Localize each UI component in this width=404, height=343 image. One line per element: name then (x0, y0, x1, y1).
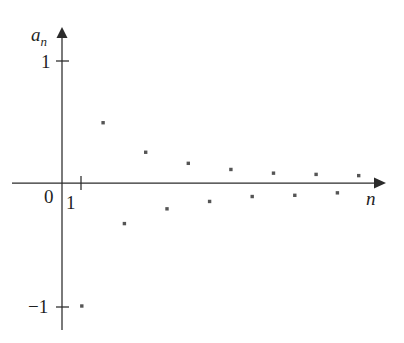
data-points-group (80, 121, 360, 308)
data-point (229, 168, 232, 171)
data-point (80, 304, 83, 307)
scatter-plot (0, 0, 404, 343)
data-point (101, 121, 104, 124)
y-axis-label-base: a (31, 24, 41, 45)
x-axis-label: n (366, 189, 376, 208)
data-point (187, 162, 190, 165)
y-tick-label-neg1: −1 (28, 297, 48, 316)
y-axis-arrowhead (57, 27, 68, 38)
data-point (314, 173, 317, 176)
data-point (293, 194, 296, 197)
data-point (272, 171, 275, 174)
data-point (208, 200, 211, 203)
origin-label: 0 (44, 187, 54, 206)
data-point (144, 151, 147, 154)
x-axis-arrowhead (374, 178, 386, 189)
data-point (165, 207, 168, 210)
y-axis-label: an (31, 25, 47, 48)
data-point (251, 195, 254, 198)
data-point (336, 191, 339, 194)
data-point (357, 174, 360, 177)
y-axis-label-subscript: n (41, 34, 48, 49)
axes-group (12, 27, 386, 330)
data-point (123, 222, 126, 225)
y-tick-label-1: 1 (41, 52, 51, 71)
figure-container: an 1 −1 0 1 n (0, 0, 404, 343)
x-tick-label-1: 1 (66, 193, 76, 212)
